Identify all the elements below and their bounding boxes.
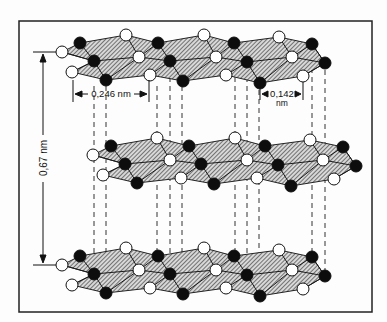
layer-bottom [56, 242, 331, 302]
interlayer-spacing-label: 0,67 nm [38, 140, 49, 176]
layer-middle [87, 132, 362, 192]
layer-top [56, 29, 331, 89]
lattice-constant-label: 0,246 nm [91, 88, 131, 99]
bond-length-unit: nm [276, 98, 288, 108]
graphite-structure-diagram: 0,67 nm 0,246 nm 0,142 nm [0, 0, 387, 322]
